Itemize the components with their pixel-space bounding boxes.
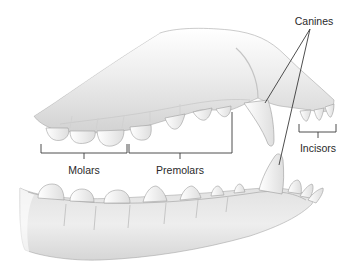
label-incisors: Incisors [300, 143, 336, 154]
lower-incisor-1 [288, 180, 301, 194]
lower-molar-3 [104, 190, 130, 203]
dog-teeth-diagram [0, 0, 354, 271]
upper-incisor-2 [314, 108, 324, 120]
incisors-bracket [299, 124, 336, 132]
lower-premolar-4 [234, 184, 245, 193]
label-molars: Molars [68, 165, 100, 176]
upper-molar-3 [97, 130, 124, 146]
lower-premolar-2 [180, 186, 201, 200]
label-premolars: Premolars [156, 165, 204, 176]
upper-incisor-1 [300, 110, 311, 121]
upper-canine [244, 100, 274, 146]
lower-molar-2 [70, 189, 94, 202]
lower-premolar-3 [211, 186, 224, 196]
upper-premolar-1 [130, 125, 151, 140]
label-canines: Canines [295, 16, 334, 27]
lower-premolar-1 [143, 186, 167, 202]
lower-molar-1 [38, 184, 64, 200]
upper-molar-1 [46, 128, 69, 141]
upper-molar-2 [70, 131, 95, 144]
